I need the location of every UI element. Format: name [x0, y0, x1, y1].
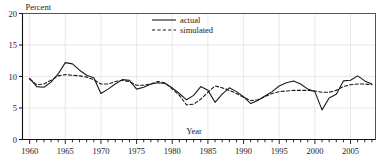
x-tick-label: 1970	[92, 146, 109, 156]
x-tick-label: 1995	[271, 146, 288, 156]
x-tick-label: 1975	[128, 146, 145, 156]
x-tick-label: 1980	[164, 146, 181, 156]
legend-label-simulated: simulated	[180, 25, 214, 35]
x-axis-minor-ticks	[30, 140, 372, 145]
x-tick-label: 1990	[235, 146, 252, 156]
chart-svg: 0510152019601965197019751980198519901995…	[0, 0, 387, 162]
x-axis-labels: 1960196519701975198019851990199520002005	[21, 146, 359, 156]
y-tick-label: 5	[13, 103, 17, 113]
y-axis-title: Percent	[26, 2, 52, 12]
y-tick-label: 0	[13, 135, 17, 145]
x-tick-label: 2000	[306, 146, 323, 156]
x-tick-label: 1985	[199, 146, 216, 156]
x-tick-label: 1965	[57, 146, 74, 156]
y-tick-label: 15	[9, 40, 18, 50]
x-tick-label: 2005	[342, 146, 359, 156]
y-tick-label: 20	[9, 9, 18, 19]
x-axis-title: Year	[186, 126, 202, 136]
x-tick-label: 1960	[21, 146, 38, 156]
y-tick-label: 10	[9, 72, 18, 82]
chart-figure: 0510152019601965197019751980198519901995…	[0, 0, 387, 162]
y-axis-ticks: 05101520	[9, 9, 23, 145]
legend-label-actual: actual	[180, 15, 201, 25]
